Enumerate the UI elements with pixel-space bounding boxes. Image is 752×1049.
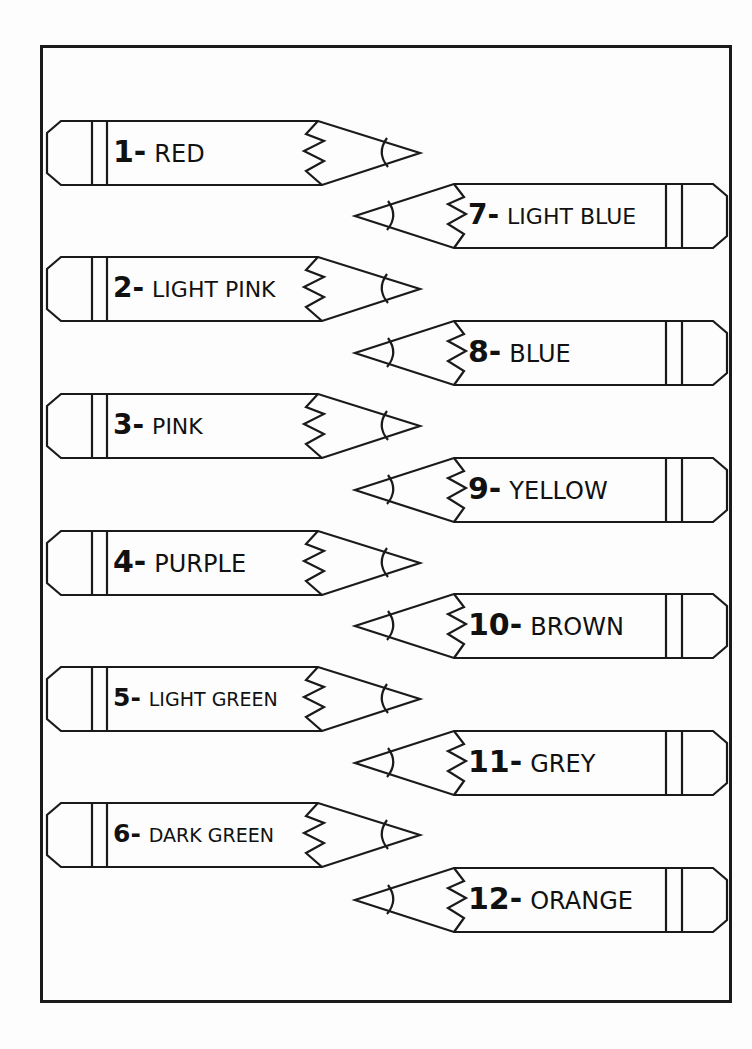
pencil-label: 1-RED	[113, 134, 205, 169]
pencil-blue[interactable]: 8-BLUE	[355, 321, 727, 385]
pencil-color-name: LIGHT PINK	[152, 277, 276, 302]
pencil-color-name: YELLOW	[508, 477, 607, 505]
pencil-color-name: PINK	[152, 414, 203, 439]
pencil-number: 3-	[113, 408, 144, 441]
pencil-number: 10-	[468, 607, 522, 642]
pencil-yellow[interactable]: 9-YELLOW	[355, 458, 727, 522]
sharpened-edge-zigzag	[304, 667, 324, 731]
eraser-outline	[47, 667, 92, 731]
pencil-label: 12-ORANGE	[468, 881, 633, 916]
sharpened-edge-zigzag	[448, 731, 466, 795]
eraser-outline	[682, 458, 727, 522]
pencil-number: 1-	[113, 134, 146, 169]
pencil-label: 2-LIGHT PINK	[113, 271, 276, 304]
pencil-pink[interactable]: 3-PINK	[47, 394, 420, 458]
pencil-color-name: BROWN	[530, 613, 624, 641]
eraser-outline	[682, 594, 727, 658]
pencil-color-name: PURPLE	[154, 550, 246, 578]
pencil-color-name: RED	[154, 140, 204, 168]
pencil-label: 9-YELLOW	[468, 471, 608, 506]
pencil-number: 5-	[113, 683, 141, 712]
pencil-number: 2-	[113, 271, 144, 304]
sharpened-edge-zigzag	[304, 121, 324, 185]
pencil-label: 7-LIGHT BLUE	[468, 198, 636, 231]
eraser-outline	[682, 731, 727, 795]
sharpened-edge-zigzag	[448, 594, 466, 658]
pencil-number: 8-	[468, 334, 501, 369]
coloring-worksheet: 1-RED7-LIGHT BLUE2-LIGHT PINK8-BLUE3-PIN…	[0, 0, 752, 1049]
pencil-purple[interactable]: 4-PURPLE	[47, 531, 420, 595]
pencil-label: 4-PURPLE	[113, 544, 246, 579]
eraser-outline	[682, 868, 727, 932]
pencil-number: 9-	[468, 471, 501, 506]
pencil-brown[interactable]: 10-BROWN	[355, 594, 727, 658]
sharpened-edge-zigzag	[304, 394, 324, 458]
pencil-label: 11-GREY	[468, 744, 596, 779]
sharpened-edge-zigzag	[448, 184, 466, 248]
pencil-number: 12-	[468, 881, 522, 916]
pencil-label: 5-LIGHT GREEN	[113, 683, 278, 712]
pencil-color-name: LIGHT GREEN	[149, 688, 278, 710]
pencil-number: 11-	[468, 744, 522, 779]
eraser-outline	[682, 321, 727, 385]
sharpened-edge-zigzag	[304, 803, 324, 867]
pencil-light-pink[interactable]: 2-LIGHT PINK	[47, 257, 420, 321]
pencil-red[interactable]: 1-RED	[47, 121, 420, 185]
pencil-orange[interactable]: 12-ORANGE	[355, 868, 727, 932]
eraser-outline	[47, 531, 92, 595]
eraser-outline	[47, 121, 92, 185]
pencil-color-name: LIGHT BLUE	[507, 204, 636, 229]
pencil-dark-green[interactable]: 6-DARK GREEN	[47, 803, 420, 867]
pencil-light-blue[interactable]: 7-LIGHT BLUE	[355, 184, 727, 248]
pencil-number: 7-	[468, 198, 499, 231]
pencil-label: 8-BLUE	[468, 334, 571, 369]
pencil-label: 10-BROWN	[468, 607, 624, 642]
eraser-outline	[47, 257, 92, 321]
sharpened-edge-zigzag	[448, 868, 466, 932]
eraser-outline	[682, 184, 727, 248]
sharpened-edge-zigzag	[304, 257, 324, 321]
pencil-layer: 1-RED7-LIGHT BLUE2-LIGHT PINK8-BLUE3-PIN…	[0, 0, 752, 1049]
pencil-grey[interactable]: 11-GREY	[355, 731, 727, 795]
pencil-number: 6-	[113, 819, 141, 848]
eraser-outline	[47, 803, 92, 867]
sharpened-edge-zigzag	[304, 531, 324, 595]
pencil-number: 4-	[113, 544, 146, 579]
pencil-light-green[interactable]: 5-LIGHT GREEN	[47, 667, 420, 731]
pencil-label: 3-PINK	[113, 408, 203, 441]
pencil-label: 6-DARK GREEN	[113, 819, 274, 848]
pencil-color-name: DARK GREEN	[149, 824, 274, 846]
eraser-outline	[47, 394, 92, 458]
pencil-color-name: GREY	[530, 750, 595, 778]
sharpened-edge-zigzag	[448, 321, 466, 385]
pencil-color-name: BLUE	[509, 340, 570, 368]
sharpened-edge-zigzag	[448, 458, 466, 522]
pencil-color-name: ORANGE	[530, 887, 633, 915]
